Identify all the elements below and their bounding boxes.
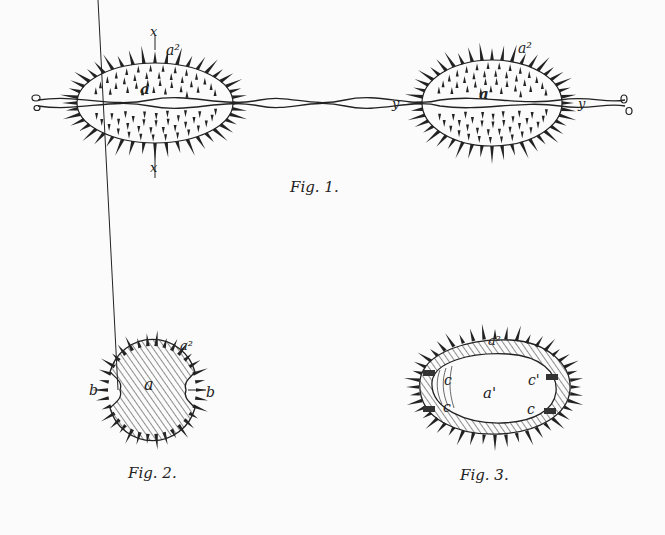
inner-spine <box>133 74 136 81</box>
inner-spine <box>126 86 129 93</box>
inner-spine <box>502 120 505 127</box>
inner-spine <box>203 77 206 84</box>
inner-spine <box>174 125 177 132</box>
outer-spine <box>567 399 583 405</box>
inner-spine <box>456 70 459 77</box>
inner-spine <box>535 76 538 83</box>
inner-spine <box>190 80 193 87</box>
label-b-left: b <box>89 382 98 398</box>
inner-spine <box>195 73 198 80</box>
outer-spine <box>436 134 447 147</box>
inner-spine <box>139 134 142 141</box>
inner-spine <box>519 67 522 74</box>
inner-spine <box>149 127 152 134</box>
inner-spine <box>498 62 501 69</box>
outer-spine <box>570 392 583 396</box>
label-y-left: y <box>391 96 400 111</box>
inner-spine <box>198 111 201 118</box>
outer-spine <box>70 80 84 88</box>
caption-fig-3: Fig. 3. <box>459 466 509 484</box>
inner-spine <box>458 120 461 127</box>
inner-spine <box>465 66 468 73</box>
outer-spine <box>175 141 180 153</box>
outer-spine <box>410 392 420 396</box>
outer-spine <box>535 426 544 438</box>
outer-spine <box>519 141 528 158</box>
inner-spine <box>99 81 102 88</box>
outer-spine <box>415 119 429 127</box>
inner-spine <box>174 66 177 73</box>
outer-spine <box>567 371 577 376</box>
outer-spine <box>536 134 545 144</box>
patent-drawing-sheet: x a² a x a² a y y Fig. 1. b b a² a Fig. … <box>0 0 665 535</box>
outer-spine <box>458 53 465 65</box>
inner-spine <box>537 122 540 129</box>
outer-spine <box>528 54 538 68</box>
caption-fig-2: Fig. 2. <box>127 464 177 482</box>
inner-spine <box>500 136 503 143</box>
outer-spine <box>63 113 81 120</box>
inner-spine <box>487 62 490 69</box>
outer-spine <box>106 136 114 147</box>
outer-spine <box>232 107 247 111</box>
inner-spine <box>137 66 140 73</box>
outer-spine <box>479 43 483 61</box>
inner-spine <box>159 79 162 86</box>
inner-spine <box>100 119 103 126</box>
inner-spine <box>523 79 526 86</box>
inner-spine <box>180 85 183 92</box>
outer-spine <box>423 125 434 133</box>
inner-spine <box>115 82 118 89</box>
label-a: a <box>144 375 154 394</box>
outer-spine <box>500 46 504 61</box>
outer-spine <box>571 385 581 389</box>
inner-spine <box>456 81 459 88</box>
inner-spine <box>443 120 446 127</box>
inner-spine <box>484 78 487 85</box>
inner-spine <box>214 89 217 96</box>
inner-spine <box>164 88 167 95</box>
outer-spine <box>406 385 419 389</box>
inner-spine <box>110 113 113 120</box>
figure-1: x a² a x a² a y y Fig. 1. <box>32 24 632 196</box>
inner-spine <box>531 112 534 119</box>
label-a2: a² <box>488 333 501 348</box>
inner-spine <box>474 81 477 88</box>
inner-spine <box>506 80 509 87</box>
outer-spine <box>430 67 440 76</box>
outer-spine <box>415 79 429 87</box>
inner-spine <box>487 129 490 136</box>
label-a2-left: a² <box>166 42 180 58</box>
outer-spine <box>455 141 464 158</box>
inner-spine <box>124 111 127 118</box>
inner-spine <box>184 110 187 117</box>
inner-spine <box>197 86 200 93</box>
inner-spine <box>467 134 470 141</box>
label-b-right: b <box>206 384 215 400</box>
outer-spine <box>225 118 237 125</box>
inner-spine <box>492 114 495 121</box>
inner-spine <box>115 71 118 78</box>
outer-spine <box>205 132 214 142</box>
inner-spine <box>123 77 126 84</box>
twisted-wire <box>38 98 625 109</box>
label-x-top: x <box>150 24 158 39</box>
inner-spine <box>167 119 170 126</box>
inner-spine <box>117 119 120 126</box>
outer-spine <box>544 67 554 76</box>
outer-spine <box>141 46 145 64</box>
inner-spine <box>525 118 528 125</box>
outer-spine <box>413 88 425 93</box>
outer-spine <box>528 138 538 152</box>
inner-spine <box>471 117 474 124</box>
inner-spine <box>125 68 128 75</box>
inner-spine <box>177 115 180 122</box>
outer-spine <box>94 132 105 145</box>
inner-spine <box>152 135 155 142</box>
outer-spine <box>225 79 242 88</box>
inner-spine <box>137 126 140 133</box>
outer-spine <box>493 435 497 451</box>
inner-spine <box>132 116 135 123</box>
inner-spine <box>185 91 188 98</box>
inner-spine <box>155 120 158 127</box>
